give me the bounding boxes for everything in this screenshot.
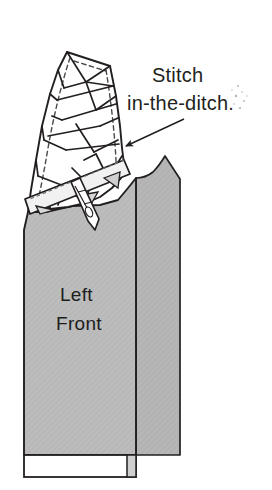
right-facing-panel (136, 156, 180, 455)
illustration-canvas: Stitch in-the-ditch. Left Front (0, 0, 272, 490)
piece-label-line-2: Front (56, 313, 102, 334)
callout-arrow (126, 119, 184, 146)
piece-label-line-1: Left (60, 284, 93, 305)
sewing-illustration: Stitch in-the-ditch. Left Front (0, 0, 272, 490)
callout-line-1: Stitch (152, 64, 203, 86)
bottom-hem-band (24, 455, 136, 477)
callout-line-2: in-the-ditch. (127, 92, 234, 114)
callout-arrow-line (126, 119, 184, 146)
